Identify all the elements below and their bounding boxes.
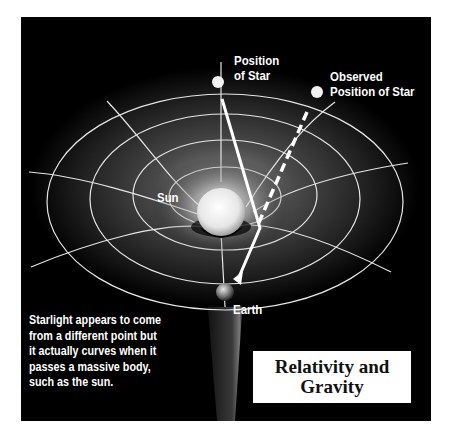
earth-label: Earth: [233, 302, 262, 317]
diagram-frame: Position of Star Observed Position of St…: [21, 17, 431, 421]
sun-label: Sun: [157, 190, 179, 205]
position-of-star-label: Position of Star: [234, 53, 279, 83]
earth-icon: [216, 283, 234, 301]
observed-position-label: Observed Position of Star: [330, 69, 415, 99]
star-position-icon: [212, 76, 224, 88]
star-observed-icon: [311, 86, 323, 98]
caption-text: Starlight appears to come from a differe…: [29, 313, 201, 391]
title-line-1: Relativity and: [275, 357, 390, 377]
sun-icon: [197, 188, 245, 236]
title-line-2: Gravity: [300, 377, 363, 397]
title-box: Relativity and Gravity: [253, 351, 411, 403]
